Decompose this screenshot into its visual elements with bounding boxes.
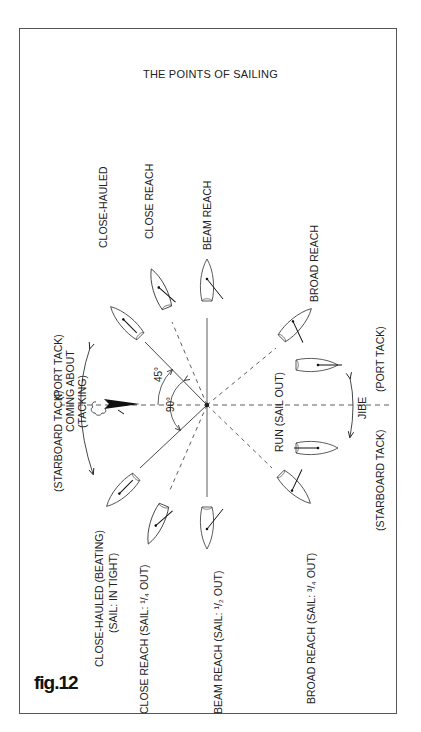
- label-tacking-starboard: (STARBOARD TACK): [52, 390, 64, 492]
- boat-starboard-close-hauled: [102, 472, 141, 511]
- boat-port-close-hauled: [106, 302, 145, 341]
- angle-45-label: 45°: [153, 367, 164, 382]
- center-point: [205, 403, 209, 407]
- boat-starboard-close-reach: [142, 503, 173, 548]
- boat-run-starboard: [294, 441, 338, 454]
- points-of-sailing-figure: THE POINTS OF SAILING: [0, 0, 421, 732]
- label-jibe: JIBE: [356, 397, 368, 419]
- label-port-close-hauled: CLOSE-HAULED: [97, 166, 109, 248]
- boat-run-port: [296, 358, 342, 371]
- label-port-broad-reach: BROAD REACH: [308, 225, 320, 302]
- boat-starboard-broad-reach: [276, 461, 323, 508]
- sailing-diagram: 45° 90°: [0, 0, 421, 732]
- label-tacking: (TACKING): [76, 375, 88, 428]
- boat-port-beam-reach: [200, 259, 223, 301]
- wind-cloud-arrow-icon: [91, 399, 140, 415]
- broad-reach-lines: [207, 348, 276, 468]
- label-coming-about: COMING ABOUT: [64, 350, 76, 432]
- label-run: RUN (SAIL OUT): [273, 372, 285, 452]
- label-starboard-broad-reach: BROAD REACH (SAIL: ³/₄ OUT): [305, 553, 317, 704]
- label-jibe-port: (PORT TACK): [374, 326, 386, 392]
- angle-90-label: 90°: [165, 397, 176, 412]
- boat-port-broad-reach: [277, 304, 324, 351]
- jibe-arrow: [350, 378, 353, 437]
- boat-port-close-reach: [145, 265, 176, 310]
- label-tacking-port: (PORT TACK): [52, 334, 64, 400]
- label-jibe-starboard: (STARBOARD TACK): [374, 429, 386, 531]
- angle-arcs: 45° 90°: [153, 367, 185, 430]
- label-starboard-close-hauled-sail: (SAIL: IN TIGHT): [107, 553, 119, 633]
- label-starboard-beam-reach: BEAM REACH (SAIL: ¹/₂ OUT): [212, 570, 224, 714]
- label-starboard-close-hauled: CLOSE-HAULED (BEATING): [93, 530, 105, 667]
- label-port-beam-reach: BEAM REACH: [201, 181, 213, 250]
- label-starboard-close-reach: CLOSE REACH (SAIL: ¹/₄ OUT): [138, 564, 150, 714]
- figure-number: fig.12: [34, 672, 78, 694]
- label-port-close-reach: CLOSE REACH: [143, 164, 155, 239]
- boat-starboard-beam-reach: [200, 507, 223, 549]
